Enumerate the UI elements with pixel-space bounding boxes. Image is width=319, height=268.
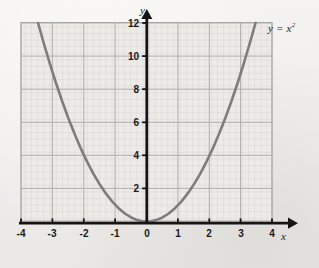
ytick-label-4: 4 (117, 150, 139, 161)
equation-label-exponent: 2 (292, 21, 296, 29)
xtick-label-4: 4 (263, 228, 281, 239)
xtick-label-2: 2 (200, 228, 218, 239)
xtick-label-3: 3 (232, 228, 250, 239)
equation-label: y = x2 (268, 21, 295, 34)
ytick-label-12: 12 (117, 18, 139, 29)
xtick-label-minus4: -4 (11, 228, 31, 239)
ytick-label-2: 2 (117, 183, 139, 194)
xtick-label-minus3: -3 (42, 228, 62, 239)
xtick-label-minus2: -2 (74, 228, 94, 239)
xtick-label-1: 1 (169, 228, 187, 239)
ytick-label-10: 10 (117, 51, 139, 62)
chart-figure: -4 -3 -2 -1 0 1 2 3 4 2 4 6 8 10 12 y x … (0, 0, 319, 268)
x-axis-label: x (281, 230, 286, 242)
xtick-label-minus1: -1 (105, 228, 125, 239)
xtick-label-0: 0 (138, 228, 156, 239)
ytick-label-6: 6 (117, 117, 139, 128)
equation-label-text: y = x (268, 22, 292, 34)
ytick-label-8: 8 (117, 84, 139, 95)
y-axis-label: y (140, 4, 145, 16)
